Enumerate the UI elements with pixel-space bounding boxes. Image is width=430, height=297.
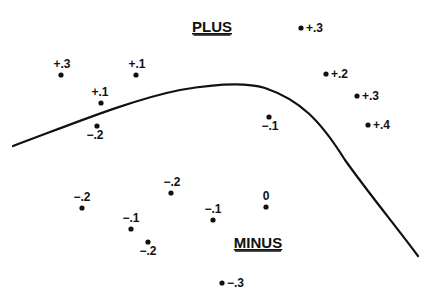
point-dot [263,204,268,209]
point-dot [168,190,173,195]
point-weight-label: −.2 [86,128,103,142]
point-weight-label: +.3 [362,89,379,103]
point-weight-label: −.2 [73,190,90,204]
data-point: −.2 [86,123,103,142]
point-weight-label: +.1 [91,85,108,99]
data-point: 0 [263,189,270,210]
point-dot [210,217,215,222]
point-weight-label: +.3 [53,57,70,71]
point-dot [128,226,133,231]
point-weight-label: +.2 [331,67,348,81]
point-weight-label: −.1 [261,119,278,133]
data-point: +.3 [298,21,323,35]
plus-region-label: PLUS [192,18,232,35]
data-point: −.2 [163,175,180,196]
point-dot [219,280,224,285]
point-weight-label: −.3 [227,276,244,290]
data-point: −.2 [73,190,90,211]
point-dot [79,205,84,210]
point-weight-label: −.1 [204,202,221,216]
point-weight-label: +.1 [128,57,145,71]
point-weight-label: −.2 [139,244,156,258]
point-dot [133,72,138,77]
point-weight-label: 0 [263,189,270,203]
data-point: +.4 [365,118,390,132]
diagram-canvas: PLUS MINUS +.3+.1+.1−.2+.3+.2+.3+.4−.1−.… [0,0,430,297]
data-point: +.1 [128,57,145,78]
point-dot [298,25,303,30]
data-point: +.1 [91,85,108,106]
data-point: +.2 [323,67,348,81]
point-weight-label: +.4 [373,118,390,132]
minus-region-label: MINUS [234,234,282,251]
data-point: −.3 [219,276,244,290]
data-points: +.3+.1+.1−.2+.3+.2+.3+.4−.1−.2−.2−.1−.2−… [53,21,390,290]
point-dot [98,100,103,105]
point-dot [58,72,63,77]
data-point: −.1 [261,114,278,133]
boundary-curve [13,84,418,256]
point-weight-label: +.3 [306,21,323,35]
data-point: +.3 [53,57,70,78]
data-point: −.1 [122,211,139,232]
data-point: −.1 [204,202,221,223]
point-dot [323,71,328,76]
point-weight-label: −.2 [163,175,180,189]
point-dot [365,122,370,127]
data-point: −.2 [139,239,156,258]
point-weight-label: −.1 [122,211,139,225]
data-point: +.3 [354,89,379,103]
point-dot [354,93,359,98]
